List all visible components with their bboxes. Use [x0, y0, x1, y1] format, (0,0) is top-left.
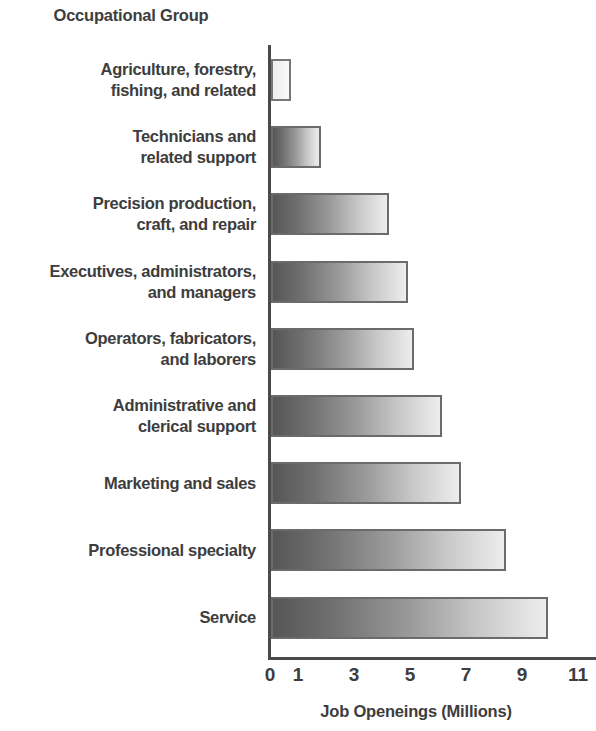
bar — [271, 59, 291, 101]
x-axis-title: Job Openeings (Millions) — [236, 702, 596, 721]
category-label: Agriculture, forestry,fishing, and relat… — [0, 58, 256, 102]
bar — [271, 462, 461, 504]
x-tick-label: 7 — [446, 664, 486, 686]
x-tick-label: 9 — [502, 664, 542, 686]
category-label-line: Administrative and — [113, 395, 256, 416]
category-label: Service — [0, 596, 256, 640]
x-tick-label: 5 — [390, 664, 430, 686]
x-axis-line — [268, 657, 596, 660]
y-axis-title: Occupational Group — [0, 6, 262, 25]
bar-row: Technicians andrelated support — [0, 125, 596, 169]
bar-chart: Occupational Group Agriculture, forestry… — [0, 0, 596, 731]
bar — [271, 529, 506, 571]
category-label-line: craft, and repair — [136, 214, 256, 235]
category-label-line: Executives, administrators, — [50, 261, 257, 282]
bar-row: Operators, fabricators,and laborers — [0, 327, 596, 371]
bar — [271, 597, 548, 639]
category-label-line: related support — [140, 147, 256, 168]
category-label-line: Precision production, — [93, 193, 256, 214]
category-label-line: clerical support — [138, 416, 256, 437]
category-label-line: Agriculture, forestry, — [101, 59, 256, 80]
bar-row: Marketing and sales — [0, 461, 596, 505]
x-tick-label: 1 — [278, 664, 318, 686]
bar-row: Administrative andclerical support — [0, 394, 596, 438]
category-label-line: Service — [199, 607, 256, 628]
bar-row: Professional specialty — [0, 528, 596, 572]
category-label: Executives, administrators,and managers — [0, 260, 256, 304]
category-label-line: and laborers — [161, 349, 256, 370]
category-label: Operators, fabricators,and laborers — [0, 327, 256, 371]
category-label: Precision production,craft, and repair — [0, 192, 256, 236]
bar-row: Service — [0, 596, 596, 640]
category-label-line: Marketing and sales — [104, 473, 256, 494]
category-label-line: fishing, and related — [111, 80, 256, 101]
category-label: Professional specialty — [0, 528, 256, 572]
bar-row: Precision production,craft, and repair — [0, 192, 596, 236]
x-tick-label: 3 — [334, 664, 374, 686]
category-label-line: Professional specialty — [88, 540, 256, 561]
category-label: Administrative andclerical support — [0, 394, 256, 438]
x-tick-label: 11 — [558, 664, 596, 686]
bar-row: Agriculture, forestry,fishing, and relat… — [0, 58, 596, 102]
bar — [271, 328, 414, 370]
category-label-line: Operators, fabricators, — [85, 328, 256, 349]
bar-row: Executives, administrators,and managers — [0, 260, 596, 304]
category-label: Marketing and sales — [0, 461, 256, 505]
category-label-line: Technicians and — [132, 126, 256, 147]
bar — [271, 261, 408, 303]
category-label: Technicians andrelated support — [0, 125, 256, 169]
bar — [271, 193, 389, 235]
bar — [271, 126, 321, 168]
bar — [271, 395, 442, 437]
category-label-line: and managers — [148, 282, 256, 303]
